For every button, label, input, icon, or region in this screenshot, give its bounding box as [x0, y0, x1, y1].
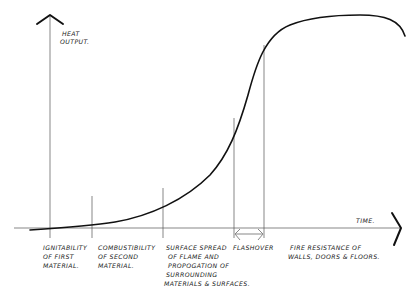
stage-label-combustibility: COMBUSTIBILITY OF SECOND MATERIAL.: [98, 244, 158, 269]
stage-label-ignitability: IGNITABILITY OF FIRST MATERIAL.: [43, 244, 90, 269]
x-axis-label: TIME.: [356, 217, 375, 224]
heat-output-curve: [30, 15, 405, 230]
x-axis-arrowhead-icon: [392, 213, 401, 245]
fire-growth-diagram: HEAT OUTPUT. TIME. IGNITABILITY OF FIRST…: [0, 0, 418, 301]
flashover-interval-arrow-icon: [235, 229, 263, 240]
y-axis-label: HEAT OUTPUT.: [60, 30, 89, 45]
stage-label-flashover: FLASHOVER: [233, 244, 274, 251]
stage-label-fire-resistance: FIRE RESISTANCE OF WALLS, DOORS & FLOORS…: [288, 244, 380, 260]
